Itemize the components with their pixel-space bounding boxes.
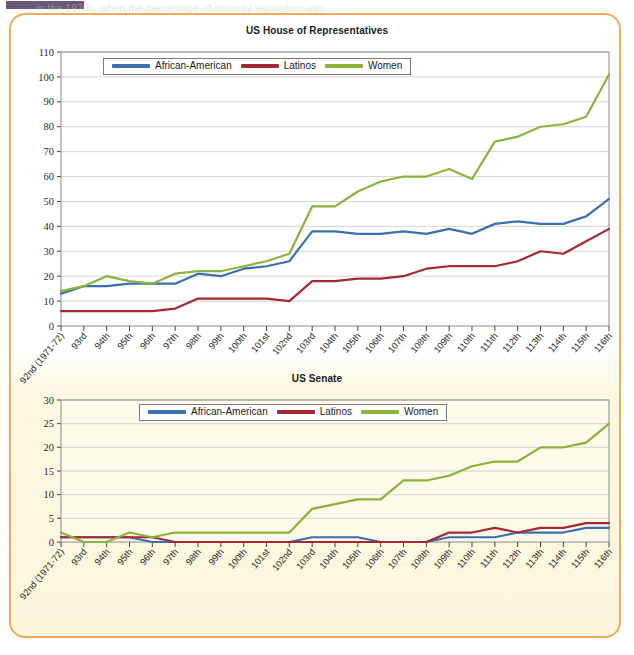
y-axis-label: 20 [44, 271, 55, 282]
y-axis-label: 10 [44, 296, 55, 307]
y-axis-label: 20 [44, 442, 55, 453]
x-axis-label: 115th [569, 547, 591, 571]
y-axis-label: 80 [44, 121, 55, 132]
x-axis-label: 111th [478, 547, 500, 570]
x-axis-label: 103rd [294, 331, 317, 355]
x-axis-label: 93rd [69, 331, 88, 352]
x-axis-label: 113th [524, 331, 546, 355]
legend-label-latinos: Latinos [320, 407, 352, 417]
x-axis-label: 102nd [270, 331, 294, 357]
x-axis-label: 106th [363, 331, 385, 355]
y-axis-label: 70 [44, 146, 55, 157]
plot-background [61, 52, 609, 326]
x-axis-label: 105th [340, 331, 362, 355]
x-axis-label: 101st [249, 547, 271, 571]
y-axis-label: 15 [44, 466, 55, 477]
legend-label-latinos: Latinos [284, 61, 316, 71]
x-axis-label: 97th [161, 547, 180, 567]
page-marker-strip [6, 1, 84, 9]
x-axis-label: 95th [115, 547, 134, 567]
x-axis-label: 92nd (1971-72) [18, 547, 66, 602]
senate-legend: African-AmericanLatinosWomen [139, 404, 447, 421]
house-chart-title: US House of Representatives [11, 25, 621, 36]
legend-item-african_american: African-American [148, 407, 268, 417]
x-axis-label: 112th [501, 547, 523, 571]
x-axis-label: 107th [386, 547, 408, 571]
x-axis-label: 110th [455, 547, 477, 571]
x-axis-label: 96th [138, 547, 157, 567]
legend-swatch-latinos [241, 64, 279, 67]
x-axis-label: 104th [318, 331, 340, 355]
y-axis-label: 0 [49, 321, 54, 332]
x-axis-label: 99th [207, 331, 226, 351]
y-axis-label: 110 [39, 47, 54, 58]
x-axis-label: 99th [207, 547, 226, 567]
chart-panel-senate: US Senate 05101520253092nd (1971-72)93rd… [11, 373, 621, 634]
x-axis-label: 116th [592, 547, 614, 571]
house-chart-svg: 010203040506070809010011092nd (1971-72)9… [11, 36, 621, 386]
house-plot-area: 010203040506070809010011092nd (1971-72)9… [11, 36, 621, 386]
y-axis-label: 60 [44, 171, 55, 182]
x-axis-label: 100th [226, 331, 248, 355]
legend-swatch-african_american [148, 410, 186, 413]
x-axis-label: 109th [432, 547, 454, 571]
x-axis-label: 94th [93, 547, 112, 567]
x-axis-label: 104th [318, 547, 340, 571]
x-axis-label: 98th [184, 331, 203, 351]
x-axis-label: 100th [226, 547, 248, 571]
y-axis-label: 100 [38, 72, 54, 83]
x-axis-label: 103rd [294, 547, 317, 571]
y-axis-label: 5 [49, 513, 54, 524]
x-axis-label: 112th [501, 331, 523, 355]
legend-label-african_american: African-American [191, 407, 268, 417]
x-axis-label: 94th [93, 331, 112, 351]
x-axis-label: 114th [546, 547, 568, 571]
legend-swatch-african_american [112, 64, 150, 67]
x-axis-label: 109th [432, 331, 454, 355]
y-axis-label: 0 [49, 537, 54, 548]
legend-swatch-women [325, 64, 363, 67]
x-axis-label: 115th [569, 331, 591, 355]
x-axis-label: 107th [386, 331, 408, 355]
x-axis-label: 110th [455, 331, 477, 355]
legend-item-women: Women [325, 61, 402, 71]
x-axis-label: 101st [249, 331, 271, 355]
senate-chart-svg: 05101520253092nd (1971-72)93rd94th95th96… [11, 384, 621, 634]
x-axis-label: 98th [184, 547, 203, 567]
figure-frame: US House of Representatives 010203040506… [9, 13, 621, 638]
legend-label-african_american: African-American [155, 61, 232, 71]
legend-item-women: Women [361, 407, 438, 417]
legend-item-latinos: Latinos [241, 61, 316, 71]
y-axis-label: 10 [44, 489, 55, 500]
x-axis-label: 111th [478, 331, 500, 354]
house-legend: African-AmericanLatinosWomen [103, 58, 411, 75]
x-axis-label: 102nd [270, 547, 294, 573]
x-axis-label: 114th [546, 331, 568, 355]
legend-item-latinos: Latinos [277, 407, 352, 417]
legend-swatch-latinos [277, 410, 315, 413]
y-axis-label: 90 [44, 96, 55, 107]
legend-label-women: Women [404, 407, 438, 417]
legend-swatch-women [361, 410, 399, 413]
senate-chart-title: US Senate [11, 373, 621, 384]
legend-label-women: Women [368, 61, 402, 71]
x-axis-label: 108th [409, 331, 431, 355]
x-axis-label: 96th [138, 331, 157, 351]
x-axis-label: 113th [524, 547, 546, 571]
y-axis-label: 25 [44, 418, 55, 429]
chart-panel-house: US House of Representatives 010203040506… [11, 25, 621, 386]
x-axis-label: 105th [340, 547, 362, 571]
x-axis-label: 116th [592, 331, 614, 355]
x-axis-label: 95th [115, 331, 134, 351]
legend-item-african_american: African-American [112, 61, 232, 71]
y-axis-label: 40 [44, 221, 55, 232]
x-axis-label: 108th [409, 547, 431, 571]
x-axis-label: 93rd [69, 547, 88, 568]
y-axis-label: 30 [44, 246, 55, 257]
x-axis-label: 97th [161, 331, 180, 351]
senate-plot-area: 05101520253092nd (1971-72)93rd94th95th96… [11, 384, 621, 634]
y-axis-label: 50 [44, 196, 55, 207]
x-axis-label: 106th [363, 547, 385, 571]
y-axis-label: 30 [44, 395, 55, 406]
